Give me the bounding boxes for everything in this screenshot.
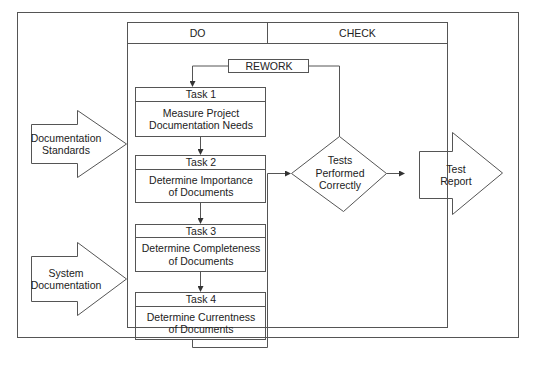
do-label: DO <box>190 27 206 40</box>
task-4-title: Task 4 <box>136 293 266 306</box>
input-label-line: System <box>48 267 83 280</box>
task-3-body: Determine Completeness of Documents <box>136 238 266 271</box>
input-system-documentation: System Documentation <box>30 257 102 301</box>
task-line: Determine Currentness <box>147 311 256 324</box>
task-line: Measure Project <box>163 107 239 120</box>
task-line: Determine Importance <box>149 174 253 187</box>
column-header-check: CHECK <box>268 23 447 43</box>
rework-text: REWORK <box>245 60 292 73</box>
decision-line: Tests <box>328 154 353 167</box>
task-line: Determine Completeness <box>142 242 260 255</box>
decision-line: Correctly <box>319 179 361 192</box>
task-2-title: Task 2 <box>136 156 266 169</box>
task-4-body: Determine Currentness of Documents <box>136 307 266 339</box>
input-documentation-standards: Documentation Standards <box>30 125 102 163</box>
input-label-line: Documentation <box>31 279 102 292</box>
task-title: Task 1 <box>186 88 216 101</box>
check-label: CHECK <box>339 27 376 40</box>
output-line: Test <box>446 163 465 176</box>
task-title: Task 3 <box>186 225 216 238</box>
task-line: Documentation Needs <box>149 119 253 132</box>
task-title: Task 4 <box>186 293 216 306</box>
output-test-report: Test Report <box>425 155 487 195</box>
decision-label: Tests Performed Correctly <box>305 150 375 196</box>
input-label-line: Standards <box>42 144 90 157</box>
task-line: of Documents <box>169 323 234 336</box>
task-1-body: Measure Project Documentation Needs <box>136 102 266 136</box>
task-line: of Documents <box>169 255 234 268</box>
task-1-title: Task 1 <box>136 88 266 101</box>
output-line: Report <box>440 175 472 188</box>
task-title: Task 2 <box>186 156 216 169</box>
task-line: of Documents <box>169 186 234 199</box>
input-label-line: Documentation <box>31 132 102 145</box>
decision-line: Performed <box>315 167 364 180</box>
column-header-do: DO <box>128 23 267 43</box>
rework-label: REWORK <box>229 60 309 73</box>
task-3-title: Task 3 <box>136 225 266 237</box>
task-2-body: Determine Importance of Documents <box>136 170 266 202</box>
